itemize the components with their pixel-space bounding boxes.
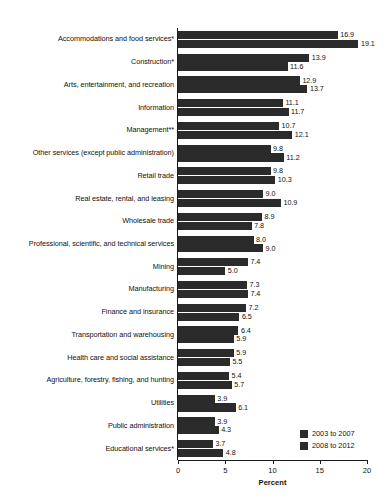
- bar-value-label: 11.1: [285, 99, 298, 107]
- bar: [178, 222, 252, 230]
- bar-value-label: 11.6: [290, 63, 303, 71]
- x-axis-tick: [225, 460, 226, 464]
- category-label: Management**: [0, 126, 174, 134]
- bar: [178, 122, 279, 130]
- bar: [178, 213, 262, 221]
- bar-value-label: 3.9: [217, 418, 227, 426]
- bar-value-label: 11.7: [291, 108, 304, 116]
- bar: [178, 62, 288, 70]
- bar: [178, 267, 225, 275]
- bar: [178, 258, 248, 266]
- bar: [178, 85, 307, 93]
- bar-value-label: 4.8: [226, 449, 236, 457]
- bar: [178, 145, 271, 153]
- bar: [178, 199, 281, 207]
- category-label: Health care and social assistance: [0, 354, 174, 362]
- legend-label: 2008 to 2012: [312, 441, 355, 450]
- bar: [178, 335, 234, 343]
- bar-value-label: 7.4: [250, 258, 260, 266]
- bar: [178, 236, 254, 244]
- bar-value-label: 9.8: [273, 145, 283, 153]
- category-label: Agriculture, forestry, fishing, and hunt…: [0, 376, 174, 384]
- bar: [178, 326, 238, 334]
- bar: [178, 313, 239, 321]
- category-label: Information: [0, 104, 174, 112]
- legend-swatch-icon: [300, 442, 308, 450]
- plot-area: 16.919.113.911.612.913.711.111.710.712.1…: [178, 28, 367, 460]
- bar-value-label: 6.1: [238, 404, 248, 412]
- bar-value-label: 5.9: [236, 335, 246, 343]
- bar-value-label: 16.9: [340, 31, 354, 39]
- x-axis-tick-label: 0: [176, 466, 180, 475]
- category-label: Wholesale trade: [0, 217, 174, 225]
- bar-value-label: 6.4: [241, 327, 251, 335]
- legend: 2003 to 2007 2008 to 2012: [300, 428, 355, 452]
- legend-item: 2003 to 2007: [300, 428, 355, 439]
- category-label: Utilities: [0, 399, 174, 407]
- bar-value-label: 12.1: [295, 131, 309, 139]
- bar: [178, 176, 275, 184]
- bar-value-label: 13.7: [310, 85, 324, 93]
- category-label: Educational services*: [0, 445, 174, 453]
- bar: [178, 167, 271, 175]
- x-axis-tick-label: 5: [223, 466, 227, 475]
- bar-value-label: 11.2: [286, 154, 299, 162]
- bar: [178, 244, 263, 252]
- x-axis-tick-label: 20: [363, 466, 371, 475]
- bar-value-label: 5.7: [234, 381, 244, 389]
- category-axis-labels: Accommodations and food services*Constru…: [0, 28, 174, 460]
- bar-value-label: 12.9: [302, 77, 316, 85]
- category-label: Accommodations and food services*: [0, 35, 174, 43]
- bar-value-label: 5.5: [232, 358, 242, 366]
- x-axis-tick: [320, 460, 321, 464]
- category-label: Finance and insurance: [0, 308, 174, 316]
- bar-value-label: 8.9: [265, 213, 275, 221]
- bar-chart: Accommodations and food services*Constru…: [0, 0, 387, 503]
- bar: [178, 290, 248, 298]
- bar: [178, 372, 229, 380]
- category-label: Public administration: [0, 422, 174, 430]
- bar: [178, 76, 300, 84]
- bar-value-label: 6.5: [242, 313, 252, 321]
- legend-item: 2008 to 2012: [300, 440, 355, 451]
- bar: [178, 131, 292, 139]
- bar-value-label: 7.3: [249, 281, 259, 289]
- bar-value-label: 13.9: [312, 54, 326, 62]
- x-axis-tick-label: 10: [268, 466, 276, 475]
- x-axis-tick-label: 15: [316, 466, 324, 475]
- x-axis-tick: [273, 460, 274, 464]
- bar: [178, 417, 215, 425]
- bar: [178, 426, 219, 434]
- bar: [178, 403, 236, 411]
- bar: [178, 31, 338, 39]
- category-label: Arts, entertainment, and recreation: [0, 81, 174, 89]
- bar-value-label: 7.8: [254, 222, 264, 230]
- bar-value-label: 4.3: [221, 426, 231, 434]
- bar: [178, 358, 230, 366]
- bar-value-label: 8.0: [256, 236, 266, 244]
- bar: [178, 190, 263, 198]
- bar-value-label: 10.3: [278, 176, 292, 184]
- bar: [178, 281, 247, 289]
- x-axis-title: Percent: [178, 478, 367, 487]
- bar: [178, 99, 283, 107]
- x-axis-tick: [178, 460, 179, 464]
- bar-value-label: 5.0: [228, 267, 238, 275]
- bar: [178, 54, 309, 62]
- bar-value-label: 5.4: [232, 372, 242, 380]
- category-label: Transportation and warehousing: [0, 331, 174, 339]
- category-label: Manufacturing: [0, 285, 174, 293]
- category-label: Professional, scientific, and technical …: [0, 240, 174, 248]
- bar: [178, 381, 232, 389]
- bar: [178, 395, 215, 403]
- category-label: Construction*: [0, 58, 174, 66]
- bar-value-label: 3.7: [215, 440, 225, 448]
- bar: [178, 40, 358, 48]
- category-label: Mining: [0, 263, 174, 271]
- bar-value-label: 9.8: [273, 167, 283, 175]
- x-axis-tick: [367, 460, 368, 464]
- bar-value-label: 9.0: [266, 190, 276, 198]
- bar: [178, 153, 284, 161]
- bar-value-label: 9.0: [266, 245, 276, 253]
- category-label: Real estate, rental, and leasing: [0, 195, 174, 203]
